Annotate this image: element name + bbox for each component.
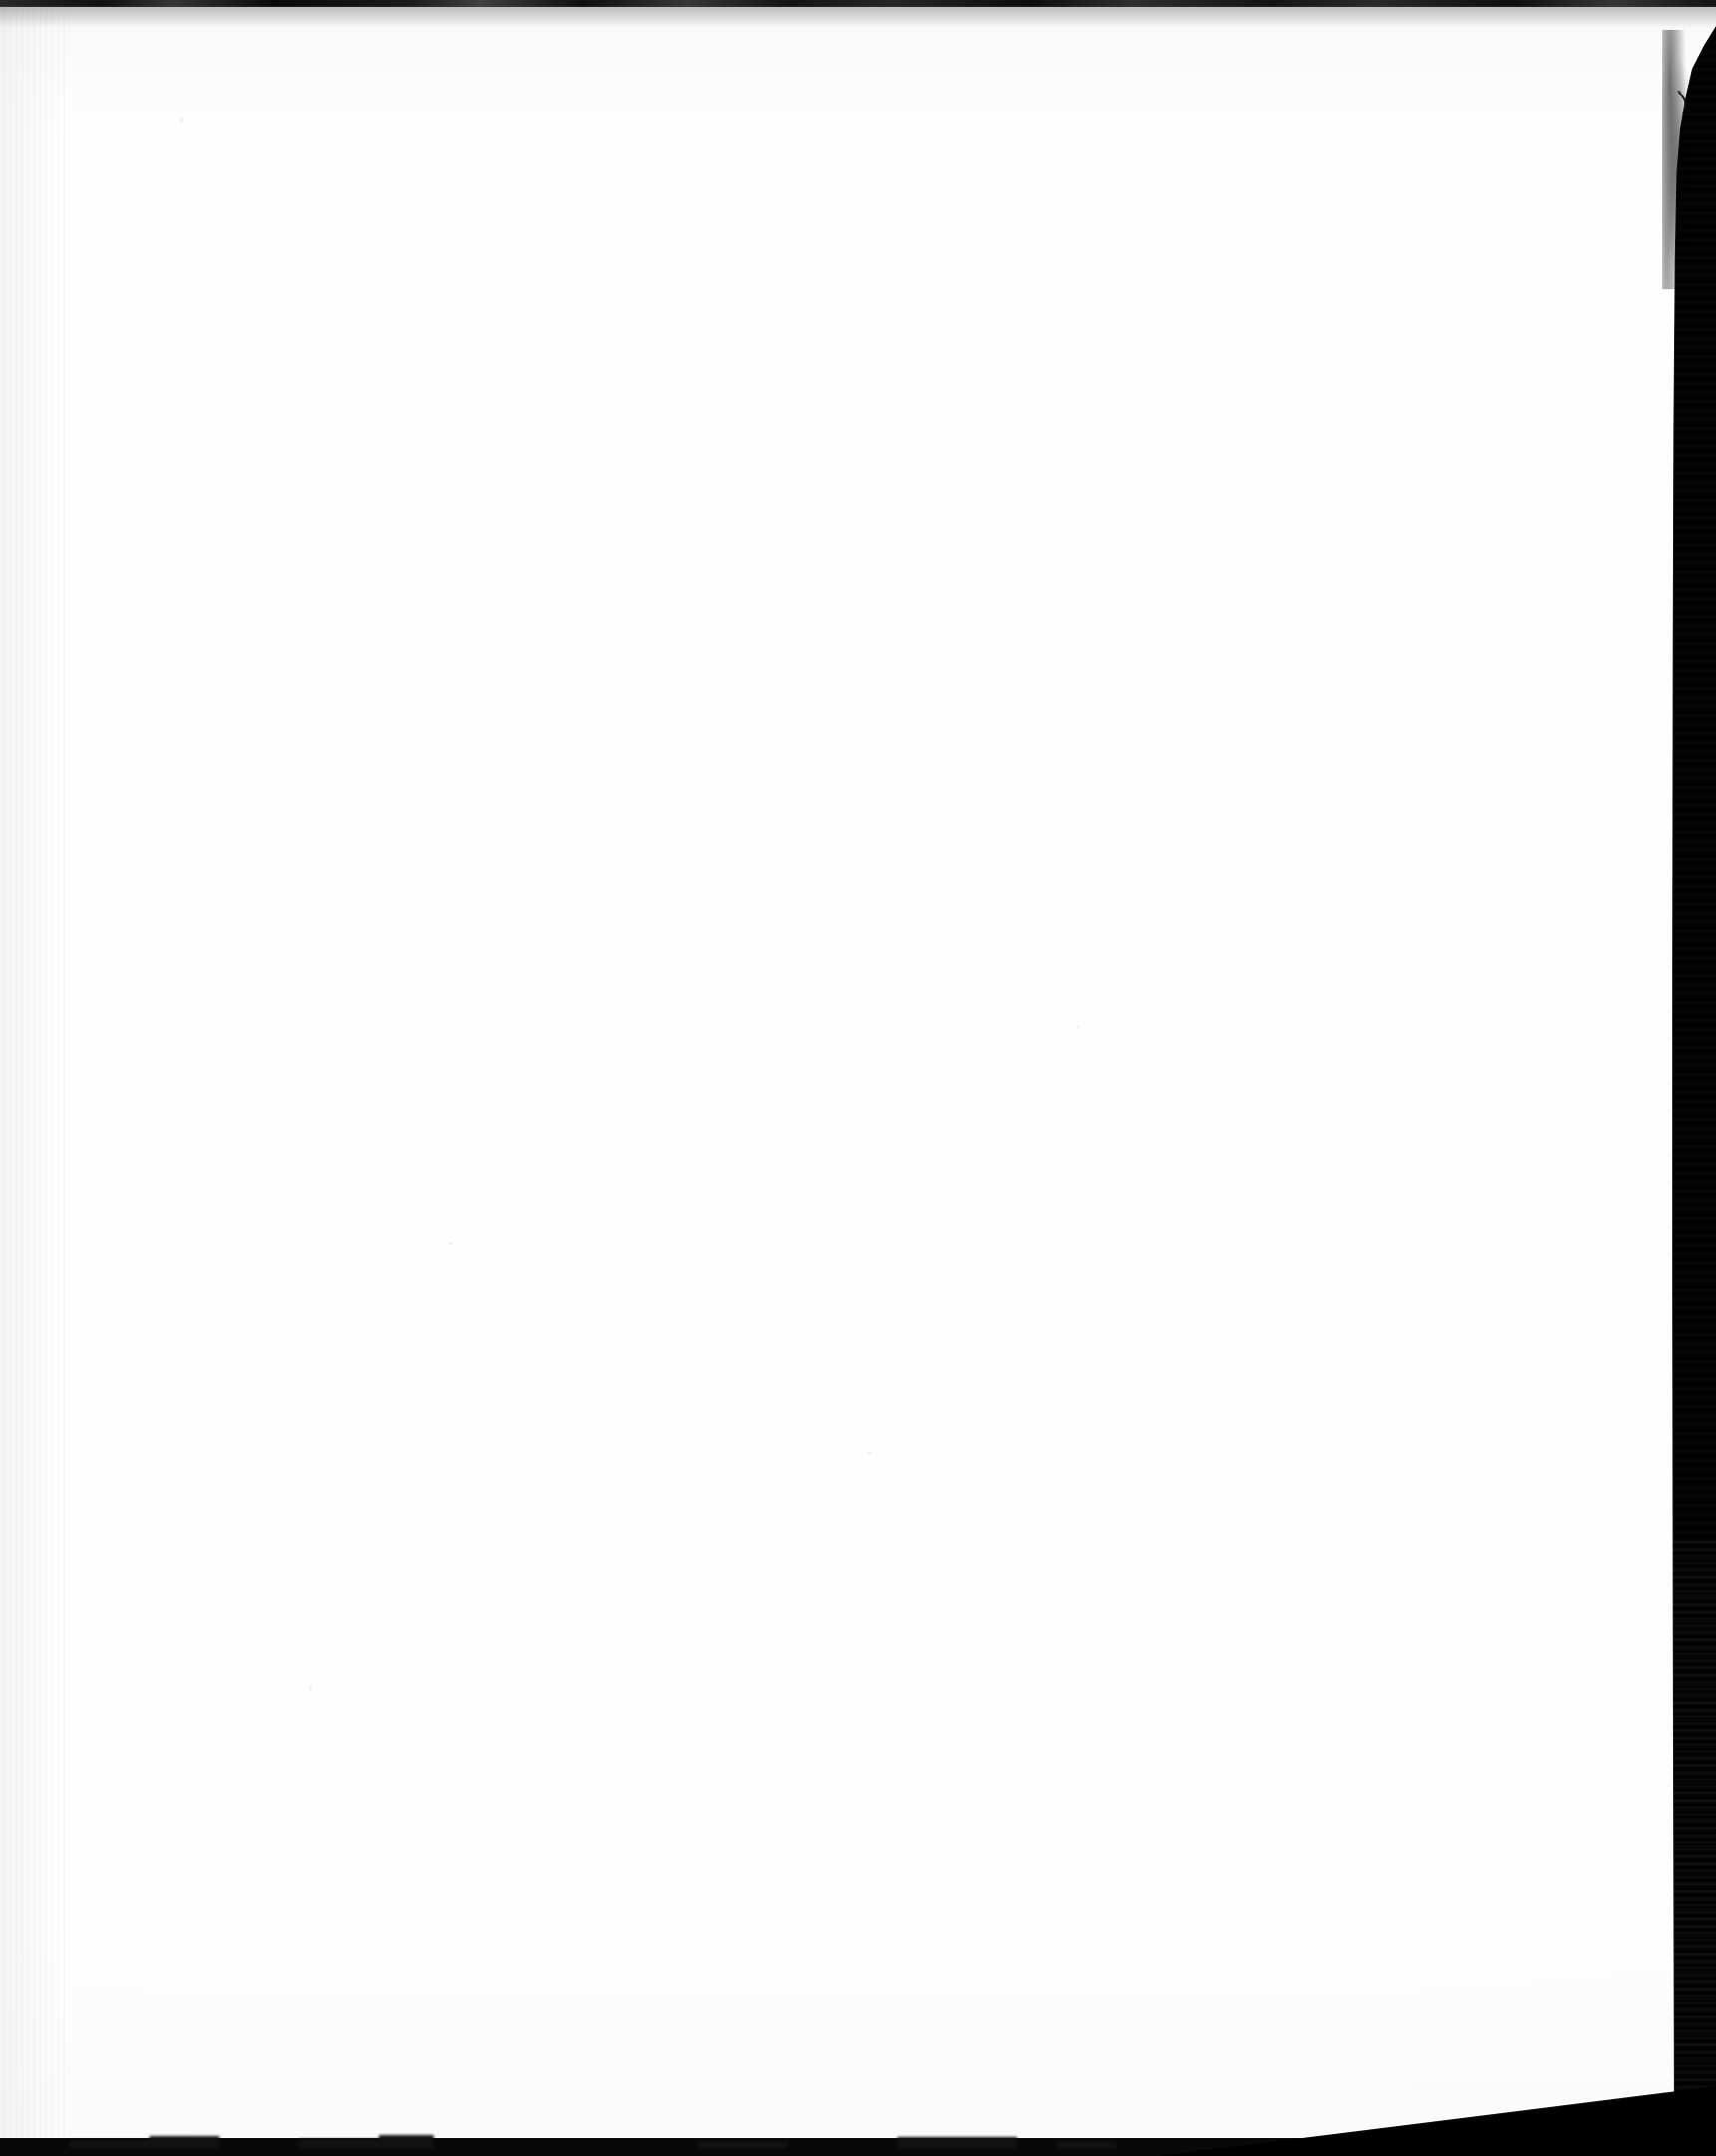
bottom-edge-bump: [698, 2141, 788, 2148]
paper-sheet: [0, 0, 1716, 2156]
bottom-edge-bump: [897, 2137, 1017, 2148]
bottom-edge-bump: [150, 2136, 219, 2148]
paper-speck: [309, 1685, 312, 1691]
paper-texture-striations: [0, 0, 70, 2156]
top-edge-band: [0, 0, 1716, 7]
bottom-edge-bump: [379, 2135, 434, 2148]
paper-speck: [179, 118, 183, 123]
paper-speck: [867, 1451, 871, 1454]
paper-speck: [449, 1242, 454, 1245]
scan-frame: Blank scanned page: [0, 0, 1716, 2156]
paper-illumination-gradient: [0, 0, 1716, 2156]
paper-speck: [1077, 1025, 1080, 1028]
bottom-edge-bump: [1057, 2141, 1117, 2148]
